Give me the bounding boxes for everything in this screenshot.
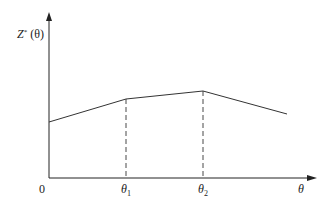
y-axis-arrow-icon (46, 12, 52, 21)
theta2-tick-label: θ2 (198, 183, 208, 198)
z-star-curve (49, 91, 287, 122)
x-axis-label: θ (298, 183, 304, 195)
theta2-subscript: 2 (204, 189, 208, 198)
piecewise-linear-diagram (0, 0, 334, 200)
origin-label: 0 (39, 183, 45, 195)
y-label-z: Z (17, 27, 24, 41)
theta1-subscript: 1 (127, 189, 131, 198)
theta1-tick-label: θ1 (121, 183, 131, 198)
y-axis-label: Z* (θ) (17, 28, 44, 40)
x-axis-arrow-icon (307, 175, 317, 181)
y-label-arg: (θ) (27, 27, 44, 41)
